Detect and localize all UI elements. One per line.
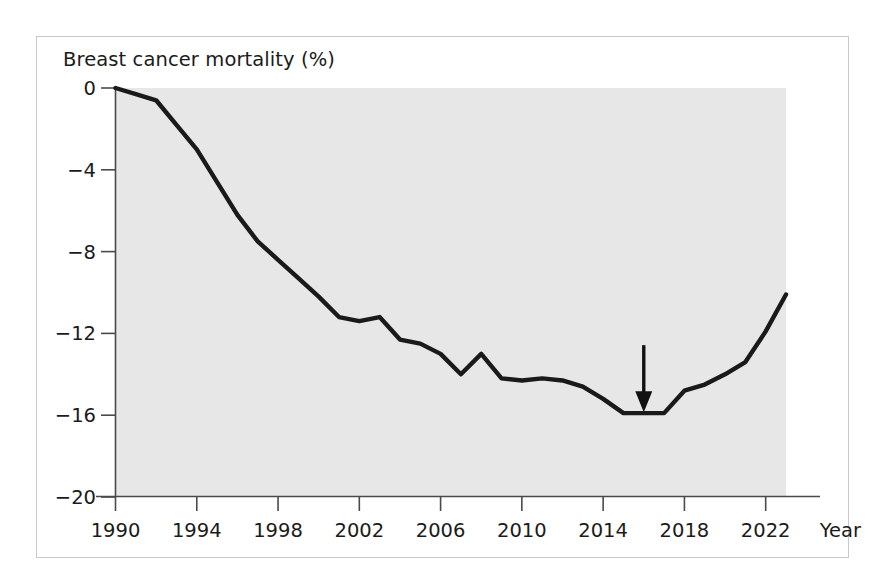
plot-background bbox=[116, 88, 786, 497]
x-tick-label: 2006 bbox=[416, 519, 466, 542]
x-tick-label: 2014 bbox=[578, 519, 628, 542]
y-tick-label: 0 bbox=[84, 77, 96, 100]
y-tick-label: −16 bbox=[55, 404, 96, 427]
y-tick-label: −12 bbox=[55, 322, 96, 345]
x-tick-label: 2018 bbox=[660, 519, 710, 542]
y-axis-ticks bbox=[101, 88, 116, 497]
x-tick-label: 2002 bbox=[334, 519, 384, 542]
y-tick-label: −4 bbox=[67, 158, 96, 181]
x-tick-label: 1994 bbox=[172, 519, 222, 542]
figure-container: Breast cancer mortality (%) 0−4−8−12−16−… bbox=[0, 0, 879, 585]
y-tick-label: −20 bbox=[55, 486, 96, 509]
x-axis-ticks bbox=[116, 497, 766, 512]
x-tick-label: 2022 bbox=[741, 519, 791, 542]
y-tick-label: −8 bbox=[67, 240, 96, 263]
x-tick-label: 1990 bbox=[91, 519, 141, 542]
chart-plot bbox=[0, 0, 879, 585]
x-axis-title: Year bbox=[820, 519, 861, 542]
x-tick-label: 1998 bbox=[253, 519, 303, 542]
x-tick-label: 2010 bbox=[497, 519, 547, 542]
